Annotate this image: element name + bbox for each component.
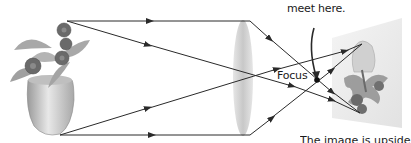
projection-screen xyxy=(332,18,402,128)
pointer-arrow xyxy=(311,28,320,80)
caption-image-upside-down: The image is upside xyxy=(300,133,411,143)
focus-label: Focus xyxy=(277,69,307,82)
caption-meet-here: meet here. xyxy=(287,2,345,15)
focus-point xyxy=(314,77,320,83)
flower-pot-object xyxy=(10,23,90,135)
convex-lens xyxy=(233,20,253,136)
